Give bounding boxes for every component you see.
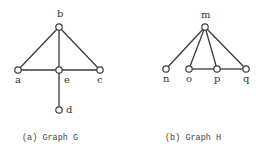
node-o xyxy=(186,66,192,72)
caption-graph-g: (a) Graph G xyxy=(22,133,78,143)
node-label-n: n xyxy=(163,73,170,84)
graph-edges xyxy=(18,27,246,110)
edge-b-c xyxy=(59,27,100,70)
edge-b-a xyxy=(18,27,59,70)
node-d xyxy=(56,107,62,113)
node-label-p: p xyxy=(214,73,220,84)
node-q xyxy=(243,66,249,72)
node-label-b: b xyxy=(57,8,63,19)
node-m xyxy=(202,24,208,30)
caption-graph-h: (b) Graph H xyxy=(165,133,221,143)
node-label-a: a xyxy=(15,74,21,85)
node-e xyxy=(56,67,62,73)
graph-figure: baecdmnopq (a) Graph G (b) Graph H xyxy=(0,0,265,150)
node-label-c: c xyxy=(97,74,103,85)
edge-m-n xyxy=(166,27,205,69)
node-c xyxy=(97,67,103,73)
edge-m-o xyxy=(189,27,205,69)
node-label-d: d xyxy=(66,104,73,115)
node-label-o: o xyxy=(186,73,192,84)
node-n xyxy=(163,66,169,72)
node-label-m: m xyxy=(201,9,211,20)
node-label-e: e xyxy=(64,74,70,85)
node-p xyxy=(214,66,220,72)
node-a xyxy=(15,67,21,73)
node-label-q: q xyxy=(243,73,250,84)
node-b xyxy=(56,24,62,30)
